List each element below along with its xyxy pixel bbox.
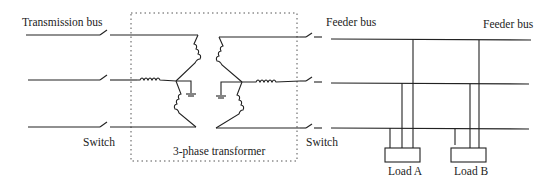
primary-wye-winding (137, 35, 201, 127)
load-b-label: Load B (454, 165, 489, 177)
transformer-label: 3-phase transformer (173, 145, 265, 158)
load-a-box (385, 148, 420, 162)
feeder-bus (331, 39, 531, 129)
load-b (451, 40, 486, 162)
switch-icon[interactable] (306, 33, 312, 37)
feeder-bus-label-right: Feeder bus (483, 18, 534, 30)
transmission-bus (26, 30, 198, 127)
transmission-bus-label: Transmission bus (22, 16, 103, 28)
power-distribution-diagram: Transmission bus Switch 3-phase transfor… (0, 0, 553, 185)
switch-icon[interactable] (100, 122, 107, 127)
switch-icon[interactable] (306, 77, 312, 81)
load-a-label: Load A (388, 165, 423, 177)
load-a (385, 39, 420, 162)
feeder-switches (300, 33, 322, 128)
secondary-wye-winding (216, 37, 300, 128)
switch-label-left: Switch (83, 136, 115, 148)
feeder-bus-label-left: Feeder bus (326, 16, 377, 28)
switch-icon[interactable] (100, 75, 107, 80)
load-b-box (451, 148, 486, 162)
ground-icon (221, 82, 242, 95)
switch-icon[interactable] (306, 124, 312, 128)
switch-label-right: Switch (306, 136, 338, 148)
switch-icon[interactable] (100, 30, 107, 35)
